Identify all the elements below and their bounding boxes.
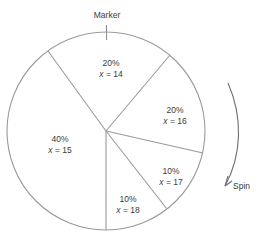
slice-label-x14: 20% x = 14 bbox=[99, 58, 122, 79]
slice-value: x = 16 bbox=[163, 116, 186, 127]
spin-arc bbox=[225, 83, 239, 186]
slice-percent: 10% bbox=[159, 166, 182, 177]
slice-divider-upper-left bbox=[48, 51, 106, 131]
spin-label: Spin bbox=[233, 181, 250, 191]
slice-value: x = 17 bbox=[159, 177, 182, 188]
slice-variable: x bbox=[163, 116, 167, 126]
slice-variable: x bbox=[48, 145, 52, 155]
marker-label: Marker bbox=[94, 10, 120, 20]
slice-percent: 20% bbox=[163, 105, 186, 116]
slice-value: x = 15 bbox=[48, 145, 71, 156]
slice-value: x = 14 bbox=[99, 69, 122, 80]
slice-variable: x bbox=[159, 177, 163, 187]
slice-percent: 20% bbox=[99, 58, 122, 69]
spinner-figure: Marker Spin 20% x = 14 20% x = 16 10% x … bbox=[0, 0, 266, 248]
slice-variable: x bbox=[116, 205, 120, 215]
slice-label-x18: 10% x = 18 bbox=[116, 194, 139, 215]
slice-label-x16: 20% x = 16 bbox=[163, 105, 186, 126]
slice-value: x = 18 bbox=[116, 205, 139, 216]
slice-percent: 40% bbox=[48, 134, 71, 145]
slice-label-x15: 40% x = 15 bbox=[48, 134, 71, 155]
slice-label-x17: 10% x = 17 bbox=[159, 166, 182, 187]
slice-percent: 10% bbox=[116, 194, 139, 205]
slice-variable: x bbox=[99, 69, 103, 79]
